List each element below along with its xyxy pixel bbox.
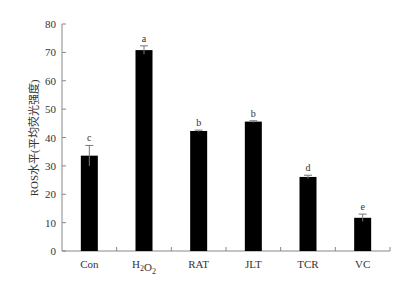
significance-letter: b: [196, 117, 201, 128]
bar-h2o2: [136, 50, 153, 251]
significance-letter: e: [360, 201, 365, 212]
y-tick-label: 80: [45, 18, 57, 30]
significance-letter: b: [251, 108, 256, 119]
x-category-label: RAT: [188, 258, 209, 270]
x-axis: ConH2O2RATJLTTCRVC: [62, 247, 390, 276]
bar-jlt: [245, 122, 262, 251]
y-tick-label: 30: [45, 160, 57, 172]
x-category-label: JLT: [245, 258, 262, 270]
y-tick-label: 70: [45, 46, 57, 58]
y-axis-title: ROS水平(平均荧光强度): [27, 79, 41, 196]
bar-tcr: [300, 177, 317, 251]
y-tick-label: 10: [45, 217, 57, 229]
y-tick-label: 0: [51, 245, 57, 257]
x-category-label: VC: [355, 258, 370, 270]
significance-letter: a: [142, 33, 147, 44]
bar-vc: [354, 218, 371, 251]
y-tick-label: 20: [45, 188, 57, 200]
x-category-label: TCR: [297, 258, 319, 270]
x-category-label: Con: [80, 258, 99, 270]
y-tick-label: 40: [45, 132, 57, 144]
x-category-label: H2O2: [132, 258, 156, 276]
bars: cabbde: [81, 33, 371, 251]
bar-rat: [190, 131, 207, 251]
bar-chart: 01020304050607080 ConH2O2RATJLTTCRVC cab…: [0, 0, 415, 283]
y-tick-label: 50: [45, 103, 57, 115]
y-axis: 01020304050607080: [45, 18, 66, 257]
significance-letter: c: [87, 132, 92, 143]
bar-con: [81, 156, 98, 251]
y-tick-label: 60: [45, 75, 57, 87]
significance-letter: d: [306, 162, 311, 173]
